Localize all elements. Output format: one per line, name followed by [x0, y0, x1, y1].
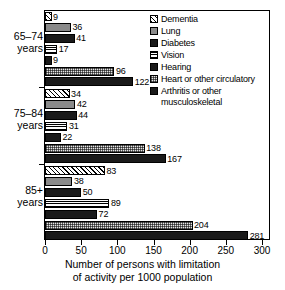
bar-value-label: 17: [59, 45, 69, 54]
bar-chart: 936411799612265–74years34424431221381677…: [0, 0, 285, 290]
bar: [45, 67, 114, 76]
bar-value-label: 72: [99, 210, 109, 219]
bar: [45, 221, 193, 230]
bar: [45, 133, 61, 142]
y-axis-tick: [39, 164, 45, 165]
bar-value-label: 9: [53, 13, 58, 22]
bar: [45, 77, 133, 86]
x-axis-tick-label: 150: [139, 246, 169, 256]
bar: [45, 231, 248, 240]
bar-value-label: 42: [77, 100, 87, 109]
legend-swatch-icon: [150, 75, 158, 83]
x-axis-tick-label: 50: [66, 246, 96, 256]
bar-value-label: 167: [167, 155, 181, 164]
bar-value-label: 22: [62, 133, 72, 142]
bar-value-label: 50: [83, 188, 93, 197]
legend-label: Heart or other circulatory: [161, 74, 255, 85]
bar-value-label: 36: [73, 23, 83, 32]
legend-label: Diabetes: [161, 38, 195, 49]
x-axis-tick-label: 250: [211, 246, 241, 256]
y-axis-group-label: 85+years: [0, 184, 43, 208]
bar: [45, 122, 67, 131]
legend-item[interactable]: Arthritis or other musculoskeletal: [150, 86, 275, 108]
x-axis-tick-label: 300: [247, 246, 277, 256]
bar: [45, 12, 52, 21]
bar: [45, 56, 52, 65]
legend-label: Arthritis or other musculoskeletal: [161, 86, 269, 107]
x-axis-tick-label: 0: [30, 246, 60, 256]
legend: DementiaLungDiabetesVisionHearingHeart o…: [150, 14, 275, 109]
bar-value-label: 44: [78, 111, 88, 120]
bar: [45, 45, 57, 54]
legend-item[interactable]: Heart or other circulatory: [150, 74, 275, 85]
bar: [45, 177, 72, 186]
bar: [45, 210, 97, 219]
bar-value-label: 96: [116, 67, 126, 76]
y-group-label-line1: 65–74: [0, 30, 43, 42]
x-axis-title-line2: of activity per 1000 population: [0, 271, 285, 284]
legend-swatch-icon: [150, 39, 158, 47]
bar: [45, 188, 81, 197]
legend-item[interactable]: Lung: [150, 26, 275, 37]
legend-swatch-icon: [150, 15, 158, 23]
bar: [45, 34, 75, 43]
legend-item[interactable]: Hearing: [150, 62, 275, 73]
bar: [45, 23, 71, 32]
legend-label: Lung: [161, 26, 180, 37]
bar: [45, 89, 70, 98]
legend-item[interactable]: Diabetes: [150, 38, 275, 49]
bar: [45, 199, 109, 208]
y-group-label-line1: 75–84: [0, 107, 43, 119]
bar: [45, 144, 145, 153]
legend-item[interactable]: Dementia: [150, 14, 275, 25]
y-group-label-line1: 85+: [0, 184, 43, 196]
bar: [45, 166, 105, 175]
x-axis-title-line1: Number of persons with limitation: [0, 258, 285, 271]
bar: [45, 111, 77, 120]
bar-value-label: 122: [135, 78, 149, 87]
legend-label: Dementia: [161, 14, 198, 25]
bar: [45, 154, 166, 163]
y-axis-tick: [39, 87, 45, 88]
legend-swatch-icon: [150, 87, 158, 95]
bar-value-label: 41: [76, 34, 86, 43]
y-axis-group-label: 65–74years: [0, 30, 43, 54]
bar-value-label: 204: [194, 221, 208, 230]
bar-value-label: 31: [69, 122, 79, 131]
legend-label: Vision: [161, 50, 184, 61]
bar-value-label: 34: [71, 90, 81, 99]
legend-swatch-icon: [150, 27, 158, 35]
bar-value-label: 38: [74, 177, 84, 186]
y-group-label-line2: years: [0, 42, 43, 54]
y-group-label-line2: years: [0, 196, 43, 208]
x-axis-tick-label: 200: [175, 246, 205, 256]
legend-item[interactable]: Vision: [150, 50, 275, 61]
bar: [45, 100, 75, 109]
legend-swatch-icon: [150, 63, 158, 71]
y-axis-group-label: 75–84years: [0, 107, 43, 131]
x-axis-tick-label: 100: [102, 246, 132, 256]
bar-value-label: 138: [146, 144, 160, 153]
bar-value-label: 9: [53, 56, 58, 65]
bar-value-label: 89: [111, 199, 121, 208]
y-group-label-line2: years: [0, 119, 43, 131]
legend-swatch-icon: [150, 51, 158, 59]
legend-label: Hearing: [161, 62, 191, 73]
bar-value-label: 83: [107, 167, 117, 176]
